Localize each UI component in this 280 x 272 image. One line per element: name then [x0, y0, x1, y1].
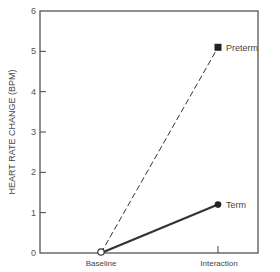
marker-term	[215, 201, 222, 208]
x-label-baseline: Baseline	[86, 259, 117, 268]
y-tick-label: 2	[31, 167, 36, 177]
x-label-interaction: Interaction	[200, 259, 237, 268]
series-line-term	[101, 205, 218, 253]
series-group: PretermTerm	[98, 43, 258, 255]
y-tick-label: 3	[31, 127, 36, 137]
series-label-term: Term	[226, 200, 246, 210]
y-axis: 0123456	[31, 6, 46, 258]
marker-preterm	[215, 44, 222, 51]
marker-baseline-origin	[98, 249, 104, 255]
y-tick-label: 1	[31, 208, 36, 218]
y-tick-label: 0	[31, 248, 36, 258]
series-line-preterm	[101, 47, 218, 253]
y-tick-label: 4	[31, 87, 36, 97]
line-chart: 0123456 Baseline Interaction HEART RATE …	[0, 0, 280, 272]
y-tick-label: 6	[31, 6, 36, 16]
series-label-preterm: Preterm	[226, 43, 258, 53]
y-axis-title: HEART RATE CHANGE (BPM)	[7, 69, 17, 194]
y-tick-label: 5	[31, 46, 36, 56]
